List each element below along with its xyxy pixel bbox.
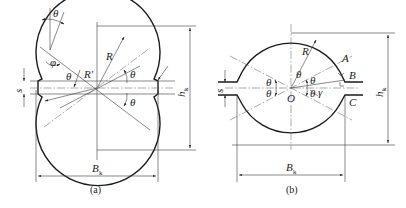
- label-theta-left-bottom: θ: [266, 87, 272, 99]
- label-theta-right-bottom: θ: [130, 96, 136, 108]
- caption-b: (b): [286, 184, 298, 196]
- theta-arc-right-top: [306, 80, 307, 88]
- label-theta-left: θ: [66, 70, 72, 82]
- label-theta-right-bottom: θ: [310, 87, 316, 99]
- figure-canvas: θ φ θ R' R θ θ s h k B k (a): [0, 0, 406, 208]
- label-A: A: [341, 52, 349, 64]
- label-C: C: [349, 96, 357, 108]
- label-bk: B k: [286, 161, 297, 176]
- label-gamma: γ: [318, 86, 323, 98]
- label-s: s: [213, 89, 225, 93]
- panel-a: θ φ θ R' R θ θ s h k B k (a): [12, 0, 196, 196]
- label-phi: φ: [50, 56, 56, 68]
- svg-text:B: B: [92, 162, 99, 174]
- theta-arc-left-top: [275, 80, 276, 88]
- label-B-point: B: [349, 69, 356, 81]
- svg-text:B: B: [286, 161, 293, 173]
- svg-text:k: k: [380, 87, 388, 91]
- theta-arc-right-bottom: [306, 88, 307, 96]
- upper-left-flange: [218, 72, 242, 82]
- label-hk: h k: [373, 87, 388, 97]
- label-O: O: [287, 92, 295, 104]
- radial-line-3: [60, 66, 140, 108]
- caption-a: (a): [90, 184, 101, 196]
- theta-arc-left-bottom: [275, 88, 276, 96]
- rolled-section-outline: [36, 0, 160, 186]
- label-theta-right-top: θ: [310, 74, 316, 86]
- svg-text:k: k: [99, 169, 103, 177]
- radius-R-arrow: [97, 37, 124, 88]
- label-R: R: [301, 45, 309, 57]
- label-hk: h k: [175, 87, 190, 97]
- label-theta-right-top: θ: [130, 68, 136, 80]
- contact-arrow: [158, 66, 168, 80]
- label-theta-top: θ: [53, 7, 59, 19]
- radius-R-prime-arrow: [45, 88, 97, 101]
- right-angle-B: [340, 82, 344, 86]
- label-s: s: [12, 89, 24, 93]
- label-R: R: [105, 50, 113, 62]
- svg-text:k: k: [182, 87, 190, 91]
- label-R-prime: R': [83, 68, 94, 80]
- label-bk: B k: [92, 162, 103, 177]
- label-theta-upper: θ: [296, 68, 302, 80]
- theta-arc-right-bottom: [124, 93, 127, 106]
- svg-text:k: k: [293, 168, 297, 176]
- theta-arrow-left: [74, 70, 80, 87]
- panel-b: R A B C O θ θ θ θ θ γ s h k B k (b): [213, 24, 395, 196]
